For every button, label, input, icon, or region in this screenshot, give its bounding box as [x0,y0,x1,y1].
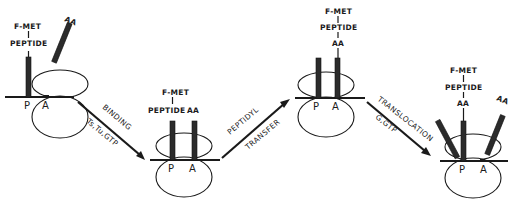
fmet-label: F-MET [14,22,42,31]
ribosome-elongation-diagram: P A F-MET PEPTIDE AA BINDING Ts,Tu,GTP P… [0,0,511,199]
peptide-label: PEPTIDE [148,106,185,115]
peptide-label: PEPTIDE [320,23,357,32]
a-site-trna [335,58,340,98]
stage-2-ribosome: P A F-MET PEPTIDE AA [148,88,220,197]
p-site-trna [316,58,321,98]
p-site-label: P [459,164,465,175]
stage-1-ribosome: P A F-MET PEPTIDE AA [5,15,88,138]
peptide-label: PEPTIDE [445,83,482,92]
a-site-label: A [480,164,487,175]
a-site-label: A [332,101,339,112]
stage-4-ribosome: P A F-MET PEPTIDE AA AA [435,66,509,198]
p-site-label: P [24,100,30,111]
p-site-label: P [168,163,174,174]
peptide-label: PEPTIDE [10,39,47,48]
p-site-label: P [313,101,319,112]
fmet-label: F-MET [325,7,353,16]
incoming-aa-label: AA [495,94,510,107]
p-site-trna [170,121,175,160]
p-site-trna [26,57,31,97]
ribosome-large-subunit [32,70,88,98]
a-site-label: A [42,100,49,111]
aa-label: AA [332,39,344,48]
incoming-aa-label: AA [63,15,78,28]
peptidyl-label: PEPTIDYL [226,105,261,137]
binding-label: BINDING [101,103,134,133]
fmet-label: F-MET [162,88,190,97]
incoming-aa-trna [52,22,72,63]
arrow-translocation: TRANSLOCATION G,GTP [367,94,435,156]
a-site-marker [480,159,485,162]
stage-3-ribosome: P A F-MET PEPTIDE AA [295,7,365,137]
p-site-trna [461,121,466,161]
a-site-aa-label: AA [187,106,199,115]
aa-label: AA [457,99,469,108]
arrow-binding: BINDING Ts,Tu,GTP [78,102,145,160]
a-site-marker [44,95,49,98]
a-site-label: A [189,163,196,174]
a-site-trna [192,121,197,160]
fmet-label: F-MET [450,66,478,75]
arrow-peptidyl-transfer: PEPTIDYL TRANSFER [222,99,290,158]
